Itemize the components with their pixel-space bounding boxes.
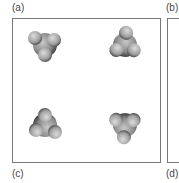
molecule-icon [25,105,65,145]
molecule-icon [25,25,65,65]
molecule-icon [105,105,145,145]
panel-b [167,18,179,163]
molecule-icon [105,25,145,65]
label-d: (d) [166,168,178,180]
label-c: (c) [12,168,24,180]
label-a: (a) [12,2,24,14]
label-b: (b) [166,2,178,14]
